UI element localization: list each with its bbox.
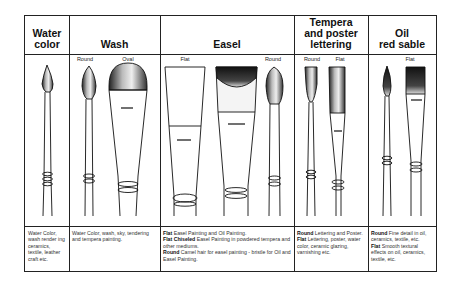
brush-chart-table: Watercolor Wash Easel Temperaand posterl… <box>24 15 437 272</box>
brush-tempera-round <box>305 67 317 216</box>
brush-easel-flat-chiseled <box>216 67 257 216</box>
description-entry: Flat Lettering, poster, water color, cer… <box>297 236 365 255</box>
brush-easel-flat <box>165 67 205 216</box>
description-term: Round <box>297 230 313 236</box>
description-term: Round <box>163 249 179 255</box>
description-term: Flat <box>297 236 306 242</box>
description-water-color: Water Color, wash render ing ceramics, t… <box>25 227 69 265</box>
description-text: Easel Painting and Oil Painting. <box>172 230 246 236</box>
brush-tempera-flat <box>329 67 345 216</box>
description-easel: Flat Easel Painting and Oil Painting. Fl… <box>160 227 294 265</box>
description-entry: Round Camel hair for easel painting - br… <box>163 249 291 262</box>
description-text: Smooth textural effects on oil, ceramics… <box>371 243 425 262</box>
description-entry: Round Fine detail in oil, ceramics, text… <box>371 230 433 243</box>
description-term: Flat Chiseled <box>163 236 195 242</box>
brush-oil-round <box>382 66 392 216</box>
brush-wash-round <box>82 66 96 216</box>
description-term: Round <box>371 230 387 236</box>
description-wash: Water Color, wash, sky, tendering and te… <box>69 227 160 246</box>
brush-easel-round <box>266 67 283 216</box>
description-entry: Flat Smooth textural effects on oil, cer… <box>371 243 433 262</box>
brush-watercolor-round <box>42 65 53 216</box>
description-text: Lettering, poster, water color, ceramic … <box>297 236 360 255</box>
brush-oil-flat <box>406 67 425 216</box>
description-term: Flat <box>371 243 380 249</box>
description-text: Water Color, wash, sky, tendering and te… <box>72 230 149 242</box>
description-oil: Round Fine detail in oil, ceramics, text… <box>368 227 436 265</box>
description-tempera: Round Lettering and Poster. Flat Letteri… <box>294 227 368 259</box>
description-term: Flat <box>163 230 172 236</box>
description-text: Camel hair for easel painting - bristle … <box>163 249 291 261</box>
description-entry: Flat Chiseled Easel Painting in powdered… <box>163 236 291 249</box>
brush-wash-oval <box>109 63 147 216</box>
description-text: Lettering and Poster. <box>313 230 362 236</box>
description-text: Water Color, wash render ing ceramics, t… <box>28 230 65 262</box>
